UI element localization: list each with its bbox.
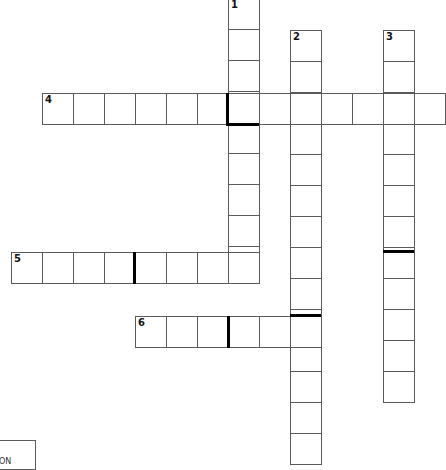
crossword-cell[interactable] <box>290 316 322 348</box>
crossword-cell[interactable] <box>290 61 322 93</box>
word-break-bar <box>227 316 230 348</box>
crossword-cell[interactable] <box>383 93 415 125</box>
crossword-cell[interactable] <box>290 278 322 310</box>
crossword-cell[interactable]: 3 <box>383 30 415 62</box>
crossword-cell[interactable] <box>42 252 74 284</box>
crossword-cell[interactable] <box>228 29 260 61</box>
crossword-cell[interactable] <box>228 184 260 216</box>
crossword-cell[interactable] <box>290 154 322 186</box>
crossword-cell[interactable] <box>228 215 260 247</box>
crossword-cell[interactable] <box>383 154 415 186</box>
clue-number: 3 <box>386 31 393 43</box>
crossword-cell[interactable] <box>228 60 260 92</box>
crossword-cell[interactable] <box>104 252 136 284</box>
crossword-cell[interactable] <box>166 93 198 125</box>
crossword-cell[interactable]: 5 <box>11 252 43 284</box>
word-break-bar <box>290 314 321 317</box>
crossword-cell[interactable] <box>383 216 415 248</box>
clue-number: 4 <box>45 94 52 106</box>
crossword-cell[interactable] <box>414 93 446 125</box>
crossword-cell[interactable] <box>197 252 229 284</box>
crossword-cell[interactable]: 4 <box>42 93 74 125</box>
crossword-cell[interactable] <box>290 371 322 403</box>
crossword-cell[interactable] <box>383 61 415 93</box>
crossword-cell[interactable] <box>290 93 322 125</box>
clue-box: ON <box>0 440 36 470</box>
crossword-cell[interactable] <box>290 247 322 279</box>
word-break-bar <box>383 250 414 253</box>
crossword-cell[interactable] <box>383 278 415 310</box>
crossword-cell[interactable] <box>290 402 322 434</box>
crossword-cell[interactable] <box>290 216 322 248</box>
crossword-cell[interactable] <box>383 185 415 217</box>
crossword-cell[interactable]: 2 <box>290 30 322 62</box>
crossword-cell[interactable] <box>228 252 260 284</box>
crossword-cell[interactable] <box>290 185 322 217</box>
crossword-cell[interactable] <box>197 93 229 125</box>
crossword-cell[interactable] <box>135 93 167 125</box>
clue-number: 2 <box>293 31 300 43</box>
crossword-cell[interactable] <box>73 252 105 284</box>
crossword-cell[interactable] <box>228 93 260 125</box>
word-break-bar <box>226 123 259 126</box>
crossword-cell[interactable]: 6 <box>135 316 167 348</box>
clue-number: 6 <box>138 317 145 329</box>
crossword-cell[interactable] <box>383 340 415 372</box>
crossword-cell[interactable] <box>135 252 167 284</box>
crossword-cell[interactable] <box>383 309 415 341</box>
crossword-cell[interactable] <box>73 93 105 125</box>
crossword-cell[interactable] <box>228 122 260 154</box>
crossword-cell[interactable] <box>383 371 415 403</box>
crossword-cell[interactable] <box>259 316 291 348</box>
word-break-bar <box>133 252 136 284</box>
word-break-bar <box>226 93 229 126</box>
crossword-cell[interactable] <box>290 433 322 465</box>
crossword-cell[interactable] <box>166 252 198 284</box>
crossword-cell[interactable] <box>104 93 136 125</box>
crossword-cell[interactable] <box>290 123 322 155</box>
crossword-cell[interactable] <box>352 93 384 125</box>
crossword-cell[interactable] <box>228 153 260 185</box>
clue-box-text: ON <box>0 457 11 466</box>
crossword-cell[interactable] <box>383 123 415 155</box>
crossword-cell[interactable] <box>197 316 229 348</box>
crossword-cell[interactable] <box>228 316 260 348</box>
clue-number: 1 <box>231 0 238 11</box>
crossword-cell[interactable] <box>259 93 291 125</box>
crossword-cell[interactable] <box>321 93 353 125</box>
crossword-cell[interactable]: 1 <box>228 0 260 30</box>
clue-number: 5 <box>14 253 21 265</box>
crossword-cell[interactable] <box>166 316 198 348</box>
